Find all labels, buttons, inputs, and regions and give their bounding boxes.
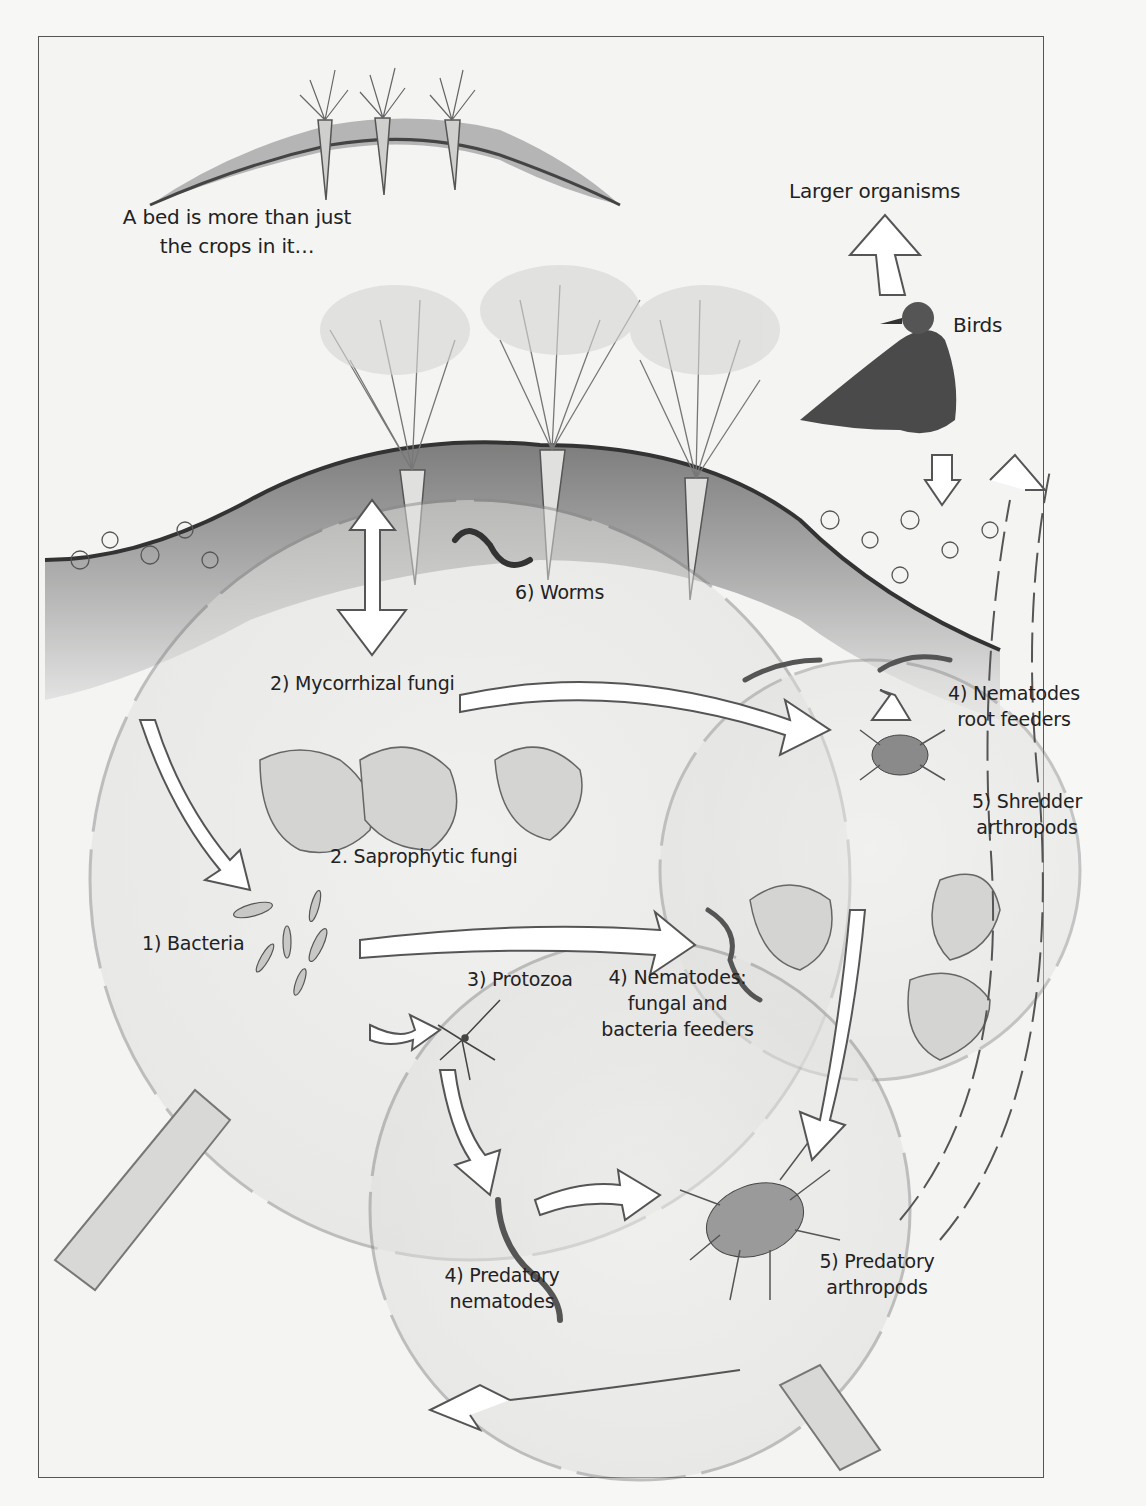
larger-organisms-arrow-icon xyxy=(850,215,920,295)
intro-caption-line1: A bed is more than just xyxy=(112,203,362,232)
predatory-arthropods-line1: 5) Predatory xyxy=(812,1248,942,1274)
bird-icon xyxy=(800,302,956,433)
fb-nematodes-line3: bacteria feeders xyxy=(590,1016,765,1042)
intro-caption: A bed is more than just the crops in it… xyxy=(112,203,362,261)
root-feeder-nematodes-line2: root feeders xyxy=(940,706,1088,732)
predatory-arthropods-label: 5) Predatory arthropods xyxy=(812,1248,942,1300)
predatory-nematodes-label: 4) Predatory nematodes xyxy=(432,1262,572,1314)
fungal-bacteria-feeder-nematodes-label: 4) Nematodes: fungal and bacteria feeder… xyxy=(590,964,765,1042)
predatory-nematodes-line2: nematodes xyxy=(432,1288,572,1314)
protozoa-label: 3) Protozoa xyxy=(467,966,573,992)
shredder-arthropods-line2: arthropods xyxy=(962,814,1092,840)
birds-label: Birds xyxy=(953,311,1002,340)
saprophytic-fungi-label: 2. Saprophytic fungi xyxy=(330,843,518,869)
shredder-arthropods-label: 5) Shredder arthropods xyxy=(962,788,1092,840)
bird-down-arrow-icon xyxy=(925,455,960,505)
fb-nematodes-line2: fungal and xyxy=(590,990,765,1016)
small-bed-icon xyxy=(150,68,620,205)
shredder-arthropods-line1: 5) Shredder xyxy=(962,788,1092,814)
larger-organisms-label: Larger organisms xyxy=(789,177,960,206)
worms-label: 6) Worms xyxy=(515,579,604,605)
bacteria-label: 1) Bacteria xyxy=(142,930,244,956)
fb-nematodes-line1: 4) Nematodes: xyxy=(590,964,765,990)
intro-caption-line2: the crops in it… xyxy=(112,232,362,261)
predatory-arthropods-line2: arthropods xyxy=(812,1274,942,1300)
root-feeder-nematodes-label: 4) Nematodes root feeders xyxy=(940,680,1088,732)
mycorrhizal-fungi-label: 2) Mycorrhizal fungi xyxy=(270,670,455,696)
root-feeder-nematodes-line1: 4) Nematodes xyxy=(940,680,1088,706)
predatory-nematodes-line1: 4) Predatory xyxy=(432,1262,572,1288)
